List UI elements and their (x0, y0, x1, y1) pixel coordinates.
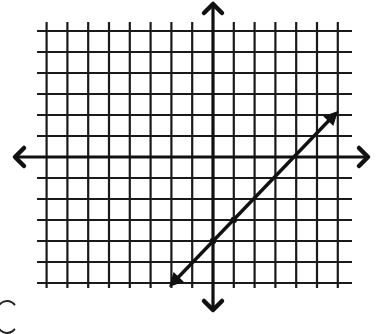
grid-lines (37, 22, 352, 288)
plotted-point (231, 217, 237, 223)
plotted-point (210, 238, 216, 244)
